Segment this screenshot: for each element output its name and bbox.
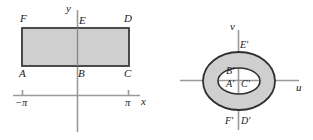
x-axis-label: x <box>141 96 146 107</box>
vertex-label-F: F <box>20 13 27 24</box>
vertex-label-E: E <box>79 15 86 26</box>
vertex-label-A-prime: A′ <box>226 79 234 89</box>
vertex-label-A: A <box>19 68 26 79</box>
u-axis-label: u <box>296 82 302 93</box>
vertex-label-B-prime: B′ <box>226 66 234 76</box>
figure-root: F E D A B C −π π x y <box>0 0 313 140</box>
w-plane-graphics <box>160 0 313 140</box>
vertex-label-F-prime: F′ <box>225 116 233 126</box>
vertex-label-D-prime: D′ <box>241 116 250 126</box>
w-plane-panel: E′ B′ A′ C′ F′ D′ u v <box>160 0 313 140</box>
x-tick-label-negative-pi: −π <box>15 98 27 109</box>
vertex-label-C-prime: C′ <box>241 79 250 89</box>
v-axis-label: v <box>230 21 235 32</box>
y-axis-label: y <box>66 3 71 14</box>
x-tick-label-positive-pi: π <box>125 98 130 109</box>
vertex-label-B: B <box>78 68 85 79</box>
vertex-label-C: C <box>124 68 131 79</box>
z-plane-panel: F E D A B C −π π x y <box>0 0 160 140</box>
rectangle-region <box>22 28 129 66</box>
vertex-label-E-prime: E′ <box>240 40 248 50</box>
vertex-label-D: D <box>124 13 132 24</box>
annulus-region <box>160 0 313 140</box>
